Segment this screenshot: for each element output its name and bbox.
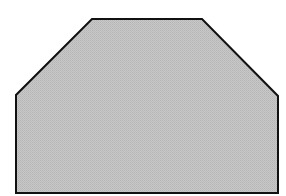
chamfered-polygon-shape bbox=[16, 19, 278, 193]
diagram-canvas bbox=[0, 0, 286, 196]
